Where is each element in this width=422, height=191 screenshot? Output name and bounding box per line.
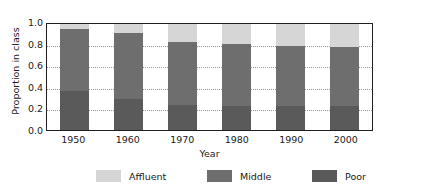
chart-legend: Affluent Middle Poor <box>96 168 366 184</box>
chart-figure: Proportion in class 1.0 0.8 0.6 0.4 0.2 … <box>0 0 422 191</box>
bar-segment-middle <box>168 42 197 105</box>
bar-segment-affluent <box>330 24 359 47</box>
bar-segment-middle <box>222 44 251 105</box>
legend-label: Affluent <box>129 171 166 182</box>
y-tick-label: 0.4 <box>19 83 43 93</box>
legend-label: Middle <box>240 171 271 182</box>
x-tick-label: 1960 <box>108 134 148 146</box>
stacked-bar <box>330 24 359 130</box>
legend-swatch-poor <box>312 170 337 182</box>
bar-segment-poor <box>276 106 305 130</box>
stacked-bar <box>114 24 143 130</box>
legend-item-middle: Middle <box>207 170 271 182</box>
bar-segment-affluent <box>222 24 251 44</box>
x-tick-label: 1950 <box>53 134 93 146</box>
legend-swatch-affluent <box>96 170 121 182</box>
bar-segment-middle <box>60 29 89 90</box>
bar-segment-poor <box>114 99 143 130</box>
bar-segment-poor <box>330 106 359 130</box>
bar-segment-poor <box>168 105 197 130</box>
legend-swatch-middle <box>207 170 232 182</box>
y-tick-label: 0.8 <box>19 40 43 50</box>
y-axis-tick-labels: 1.0 0.8 0.6 0.4 0.2 0.0 <box>16 23 43 131</box>
bar-group <box>47 24 372 130</box>
bar-segment-poor <box>222 106 251 130</box>
legend-item-affluent: Affluent <box>96 170 166 182</box>
bar-segment-middle <box>114 33 143 100</box>
x-tick-label: 1990 <box>271 134 311 146</box>
stacked-bar <box>60 24 89 130</box>
stacked-bar <box>222 24 251 130</box>
y-tick-label: 0.2 <box>19 104 43 114</box>
x-tick-label: 1970 <box>162 134 202 146</box>
bar-segment-affluent <box>168 24 197 42</box>
x-axis-tick-labels: 1950 1960 1970 1980 1990 2000 <box>46 134 373 146</box>
x-axis-title: Year <box>46 148 373 159</box>
bar-segment-affluent <box>276 24 305 46</box>
bar-segment-middle <box>276 46 305 105</box>
bar-segment-middle <box>330 47 359 105</box>
y-tick-label: 0.0 <box>19 126 43 136</box>
stacked-bar <box>276 24 305 130</box>
legend-label: Poor <box>345 171 366 182</box>
plot-area <box>46 23 373 131</box>
bar-segment-affluent <box>114 24 143 32</box>
stacked-bar <box>168 24 197 130</box>
x-tick-label: 2000 <box>326 134 366 146</box>
x-tick-label: 1980 <box>217 134 257 146</box>
y-tick-label: 0.6 <box>19 61 43 71</box>
bar-segment-poor <box>60 91 89 130</box>
y-tick-label: 1.0 <box>19 18 43 28</box>
legend-item-poor: Poor <box>312 170 366 182</box>
